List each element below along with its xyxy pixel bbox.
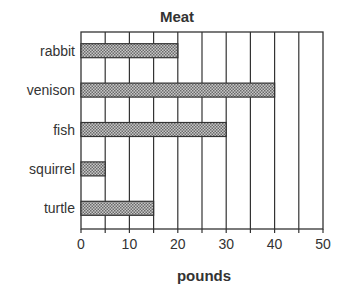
x-tick-label: 30: [218, 236, 234, 252]
x-tick-label: 40: [267, 236, 283, 252]
bar-rabbit: [81, 44, 178, 58]
bar-squirrel: [81, 162, 105, 176]
bar-fish: [81, 123, 226, 137]
category-labels: rabbitvenisonfishsquirrelturtle: [27, 43, 75, 217]
category-label: turtle: [44, 200, 75, 216]
category-label: squirrel: [29, 161, 75, 177]
bar-turtle: [81, 201, 154, 215]
category-label: fish: [53, 122, 75, 138]
x-axis-label: pounds: [177, 267, 231, 284]
x-tick-label: 0: [77, 236, 85, 252]
category-label: rabbit: [40, 43, 75, 59]
chart-title: Meat: [160, 8, 194, 25]
x-tick-label: 20: [170, 236, 186, 252]
x-tick-label: 50: [315, 236, 331, 252]
bar-chart: Meat rabbitvenisonfishsquirrelturtle 010…: [0, 0, 351, 295]
chart-svg: Meat rabbitvenisonfishsquirrelturtle 010…: [0, 0, 351, 295]
category-label: venison: [27, 82, 75, 98]
bar-venison: [81, 83, 275, 97]
x-axis-ticks: 01020304050: [77, 236, 331, 252]
x-tick-label: 10: [122, 236, 138, 252]
